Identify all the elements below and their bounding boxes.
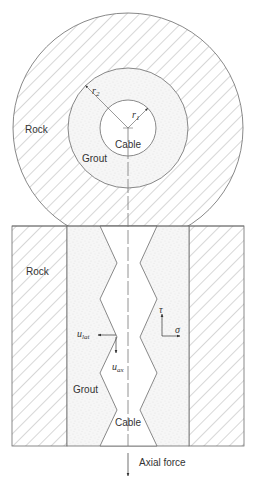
rock-label-top: Rock — [25, 124, 49, 135]
grout-label-bottom: Grout — [73, 384, 98, 395]
cable-bolt-diagram: r2 r1 Rock Grout Cable τ σ ulat uax Rock… — [0, 0, 257, 483]
rock-label-bottom: Rock — [26, 266, 50, 277]
rock-left — [12, 226, 67, 446]
rock-right — [189, 226, 244, 446]
tau-label: τ — [159, 304, 163, 315]
cable-label-bottom: Cable — [115, 417, 142, 428]
grout-label-top: Grout — [82, 153, 107, 164]
axial-force-label: Axial force — [139, 457, 186, 468]
